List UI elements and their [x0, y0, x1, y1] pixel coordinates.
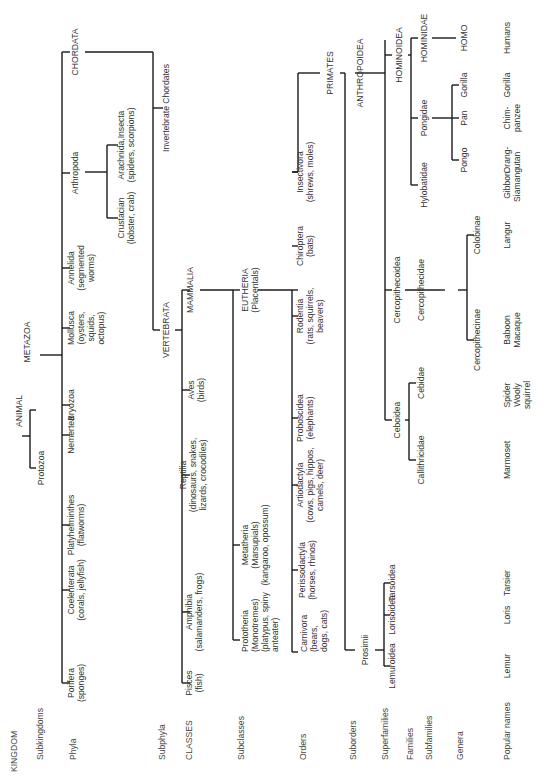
- label-prototheria-line: anteater): [270, 617, 280, 652]
- label-cercopithecinae-line: Cercopithecinae: [472, 309, 482, 371]
- rank-label-subfamilies-line: Subfamilies: [424, 716, 434, 760]
- label-metazoa-line: METAZOA: [22, 321, 32, 362]
- rank-label-subkingdoms-line: Subkingdoms: [35, 708, 45, 760]
- label-arachnida-line: Arachnida,Insecta: [116, 110, 126, 179]
- popular-name-line: Macaque: [512, 312, 522, 348]
- label-rodentia-line: Rodentia: [295, 299, 305, 334]
- rank-label-classes: CLASSES: [184, 720, 194, 760]
- popular-name: Loris: [502, 606, 512, 625]
- popular-name-line: Spider: [502, 382, 512, 407]
- label-cercopithecinae: Cercopithecinae: [472, 309, 482, 371]
- popular-name-line: Siamang: [512, 168, 522, 202]
- label-cercopithecidae-line: Cercopithecidae: [416, 259, 426, 321]
- label-platyhelminthes: Platyhelminthes(flatworms): [66, 495, 86, 556]
- label-cercopithecidae: Cercopithecidae: [416, 259, 426, 321]
- label-perissodactyla-line: Perissodactyla: [297, 542, 307, 598]
- label-metazoa: METAZOA: [22, 321, 32, 362]
- label-mollusca-line: Mollusca: [66, 311, 76, 345]
- label-mollusca-line: squids,: [86, 314, 96, 341]
- popular-name: BaboonMacaque: [502, 312, 522, 348]
- popular-name-line: Loris: [502, 606, 512, 625]
- label-reptilia-line: lizards, crocodiles): [198, 439, 208, 510]
- label-prototheria: Prototheria(Monotremes)(platypus, spinya…: [240, 592, 280, 652]
- label-mammalia-line: MAMMALIA: [185, 267, 195, 313]
- label-chiroptera-line: Chiroptera: [295, 226, 305, 266]
- label-gorilla: Gorilla: [459, 72, 469, 97]
- rank-label-phyla: Phyla: [68, 738, 78, 760]
- label-bryozoa-line: Bryozoa: [66, 389, 76, 421]
- rank-label-subphyla: Subphyla: [157, 724, 167, 760]
- rank-label-superfamilies: Superfamilies: [380, 708, 390, 760]
- label-ceboidea-line: Ceboidea: [392, 401, 402, 438]
- label-bryozoa: Bryozoa: [66, 389, 76, 421]
- label-prosimii: Prosimii: [360, 635, 370, 666]
- label-coelenterata-line: Coelenterata: [66, 565, 76, 614]
- label-metatheria: Metatheria(Marsupials)(kangaroo, opossum…: [240, 504, 270, 585]
- popular-name: Langur: [502, 221, 512, 248]
- label-mollusca-line: (oysters,: [76, 312, 86, 345]
- label-pan: Pan: [459, 110, 469, 126]
- label-cebidae-line: Cebidae: [416, 367, 426, 399]
- rank-label-subfamilies: Subfamilies: [424, 716, 434, 760]
- rank-label-classes-line: CLASSES: [184, 720, 194, 760]
- label-porifera-line: Porifera: [66, 668, 76, 698]
- popular-name-line: Humans: [502, 22, 512, 54]
- label-tarsoidea: Tarsoidea: [387, 564, 397, 601]
- popular-name: Lemur: [502, 654, 512, 678]
- popular-name-line: squirrel: [522, 381, 532, 409]
- popular-name: Tarsier: [502, 570, 512, 596]
- popular-name-line: Orang-: [502, 146, 512, 173]
- rank-label-genera: Genera: [455, 731, 465, 760]
- popular-name-line: Marmoset: [502, 440, 512, 479]
- rank-label-popular_names: Popular names: [502, 702, 512, 760]
- taxonomy-diagram: KINGDOMSubkingdomsPhylaSubphylaCLASSESSu…: [0, 0, 550, 782]
- rank-label-subphyla-line: Subphyla: [157, 724, 167, 760]
- label-chiroptera: Chiroptera(bats): [295, 226, 315, 266]
- label-invertebrate_chordates: Invertebrate Chordates: [161, 64, 171, 152]
- rank-label-popular_names-line: Popular names: [502, 702, 512, 760]
- label-artiodactyla-line: camels, deer): [315, 459, 325, 511]
- label-crustacian: Crustacian(lobster, crab): [116, 192, 136, 245]
- label-amphibia-line: (salamanders, frogs): [194, 572, 204, 651]
- label-pisces-line: Pisces: [184, 670, 194, 695]
- rank-label-families-line: Families: [405, 728, 415, 760]
- label-hominoidea-line: HOMINOIDEA: [394, 27, 404, 83]
- label-carnivora-line: Carnivora: [299, 615, 309, 652]
- label-primates: PRIMATES: [325, 51, 335, 95]
- popular-name: Chim-panzee: [502, 104, 522, 132]
- label-protozoa-line: Protozoa: [36, 451, 46, 486]
- label-carnivora-line: (bears,: [309, 625, 319, 652]
- label-vertebrata: VERTEBRATA: [161, 302, 171, 358]
- popular-name: Marmoset: [502, 440, 512, 479]
- label-carnivora-line: dogs, cats): [319, 610, 329, 652]
- label-proboscidea-line: Proboscidea: [295, 394, 305, 442]
- rank-label-superfamilies-line: Superfamilies: [380, 708, 390, 760]
- label-artiodactyla-line: (cows, pigs, hippos,: [305, 447, 315, 522]
- label-prototheria-line: (Monotremes): [250, 598, 260, 652]
- rank-label-suborders-line: Suborders: [348, 720, 358, 760]
- label-porifera-line: (sponges): [76, 664, 86, 702]
- label-proboscidea: Proboscidea(elephants): [295, 394, 315, 442]
- label-platyhelminthes-line: (flatworms): [76, 504, 86, 547]
- label-mammalia: MAMMALIA: [185, 267, 195, 313]
- label-hylobatidae-line: Hylobatidae: [419, 162, 429, 208]
- label-tarsoidea-line: Tarsoidea: [387, 564, 397, 601]
- label-hominidae-line: HOMINIDAE: [419, 13, 429, 62]
- rank-label-families: Families: [405, 728, 415, 760]
- rank-label-kingdom-line: KINGDOM: [9, 731, 19, 772]
- popular-name-line: Gibbon: [502, 171, 512, 199]
- label-arachnida: Arachnida,Insecta(spiders, scorpions): [116, 107, 136, 182]
- label-chordata-line: CHORDATA: [70, 28, 80, 75]
- popular-name-line: Wooly: [512, 382, 522, 406]
- rank-label-subclasses: Subclasses: [236, 716, 246, 760]
- rank-label-suborders: Suborders: [348, 720, 358, 760]
- label-protozoa: Protozoa: [36, 451, 46, 486]
- label-amphibia-line: Amphibia: [184, 594, 194, 630]
- label-eutheria: EUTHERIA(Placentals): [240, 267, 260, 313]
- label-lemuroidea-line: Lemuroidea: [387, 643, 397, 689]
- popular-name-line: Lemur: [502, 654, 512, 678]
- label-colobinae: Colobinae: [472, 215, 482, 254]
- rank-label-phyla-line: Phyla: [68, 738, 78, 760]
- label-pisces-line: (fish): [194, 673, 204, 692]
- label-annelida-line: Annelida: [66, 251, 76, 285]
